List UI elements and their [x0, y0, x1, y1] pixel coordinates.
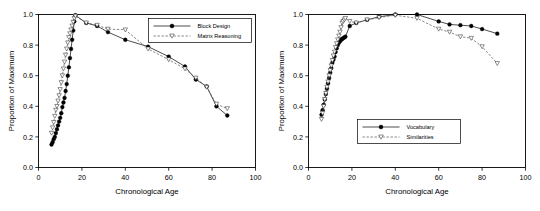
- data-point-marker: [50, 126, 54, 130]
- data-point-marker: [58, 116, 62, 120]
- legend-label: Vocabulary: [407, 124, 435, 130]
- data-point-marker: [53, 114, 57, 118]
- data-point-marker: [61, 67, 65, 71]
- data-point-marker: [59, 81, 63, 85]
- data-point-marker: [321, 104, 325, 108]
- data-point-marker: [57, 120, 61, 124]
- x-tick-label: 60: [435, 173, 443, 182]
- left-y-axis-ticks: 0.00.20.40.60.81.0: [23, 10, 39, 172]
- x-tick-label: 40: [121, 173, 129, 182]
- y-tick-label: 0.4: [293, 102, 303, 111]
- data-point-marker: [123, 28, 127, 32]
- data-point-marker: [62, 60, 66, 64]
- data-point-marker: [167, 58, 171, 62]
- data-point-marker: [62, 101, 66, 105]
- left-x-axis-ticks: 020406080100: [37, 168, 262, 182]
- x-tick-label: 80: [478, 173, 486, 182]
- data-point-marker: [480, 27, 484, 31]
- data-point-marker: [55, 127, 59, 131]
- right-legend: VocabularySimilarities: [358, 120, 461, 144]
- legend-label: Matrix Reasoning: [198, 33, 242, 39]
- data-point-marker: [57, 94, 61, 98]
- data-point-marker: [54, 108, 58, 112]
- left-y-axis-title: Proportion of Maximum: [7, 51, 16, 132]
- x-tick-label: 20: [348, 173, 356, 182]
- data-point-marker: [55, 104, 59, 108]
- data-point-marker: [66, 41, 70, 45]
- data-point-marker: [65, 82, 69, 86]
- data-point-marker: [339, 26, 343, 30]
- data-point-marker: [319, 117, 323, 121]
- data-point-marker: [63, 53, 67, 57]
- left-x-axis-title: Chronological Age: [115, 187, 178, 196]
- y-tick-label: 0.0: [293, 163, 303, 172]
- data-point-marker: [225, 114, 229, 118]
- data-point-marker: [495, 62, 499, 66]
- legend-label: Block Design: [198, 23, 231, 29]
- y-tick-label: 0.8: [293, 41, 303, 50]
- data-point-marker: [437, 27, 441, 31]
- data-point-marker: [70, 38, 74, 42]
- data-point-marker: [348, 24, 352, 28]
- data-point-marker: [68, 56, 72, 60]
- left-legend: Block DesignMatrix Reasoning: [149, 19, 252, 43]
- series-vocabulary: [320, 13, 500, 117]
- data-point-marker: [469, 36, 473, 40]
- right-chart-svg: 0.00.20.40.60.81.0 020406080100 Vocabula…: [270, 0, 540, 211]
- x-tick-label: 80: [208, 173, 216, 182]
- data-point-marker: [54, 131, 58, 135]
- chart-panel-right: 0.00.20.40.60.81.0 020406080100 Vocabula…: [270, 0, 540, 211]
- right-series-group: [319, 13, 499, 122]
- data-point-marker: [495, 32, 499, 36]
- data-point-marker: [68, 32, 72, 36]
- series-similarities: [319, 13, 499, 121]
- data-point-marker: [469, 24, 473, 28]
- y-tick-label: 0.8: [23, 41, 33, 50]
- data-point-marker: [437, 19, 441, 23]
- data-point-marker: [66, 74, 70, 78]
- data-point-marker: [337, 34, 341, 38]
- x-tick-label: 0: [37, 173, 41, 182]
- x-tick-label: 60: [165, 173, 173, 182]
- data-point-marker: [64, 89, 68, 93]
- x-tick-label: 0: [307, 173, 311, 182]
- data-point-marker: [448, 23, 452, 27]
- data-point-marker: [56, 99, 60, 103]
- y-tick-label: 0.4: [23, 102, 33, 111]
- data-point-marker: [69, 47, 73, 51]
- chart-panel-left: 0.00.20.40.60.81.0 020406080100 Block De…: [0, 0, 270, 211]
- x-tick-label: 100: [250, 173, 262, 182]
- data-point-marker: [56, 124, 60, 128]
- data-point-marker: [59, 111, 63, 115]
- x-tick-label: 100: [520, 173, 532, 182]
- data-point-marker: [459, 23, 463, 27]
- right-y-axis-ticks: 0.00.20.40.60.81.0: [293, 10, 309, 172]
- legend-label: Similarities: [407, 134, 434, 140]
- legend-marker: [170, 24, 174, 28]
- data-point-marker: [415, 13, 419, 17]
- data-point-marker: [63, 96, 67, 100]
- x-tick-label: 20: [78, 173, 86, 182]
- data-point-marker: [58, 88, 62, 92]
- data-point-marker: [225, 107, 229, 111]
- y-tick-label: 0.2: [23, 133, 33, 142]
- x-tick-label: 40: [391, 173, 399, 182]
- data-point-marker: [458, 35, 462, 39]
- y-tick-label: 0.0: [23, 163, 33, 172]
- data-point-marker: [65, 47, 69, 51]
- data-point-marker: [343, 35, 347, 39]
- data-point-marker: [49, 131, 53, 135]
- right-y-axis-title: Proportion of Maximum: [277, 51, 286, 132]
- right-x-axis-title: Chronological Age: [385, 187, 448, 196]
- left-chart-svg: 0.00.20.40.60.81.0 020406080100 Block De…: [0, 0, 270, 211]
- data-point-marker: [348, 20, 352, 24]
- data-point-marker: [338, 30, 342, 34]
- y-tick-label: 0.2: [293, 133, 303, 142]
- data-point-marker: [51, 120, 55, 124]
- right-x-axis-ticks: 020406080100: [307, 168, 532, 182]
- figure-two-panel-chart: 0.00.20.40.60.81.0 020406080100 Block De…: [0, 0, 540, 211]
- y-tick-label: 0.6: [23, 71, 33, 80]
- y-tick-label: 1.0: [293, 10, 303, 19]
- y-tick-label: 1.0: [23, 10, 33, 19]
- data-point-marker: [53, 135, 57, 139]
